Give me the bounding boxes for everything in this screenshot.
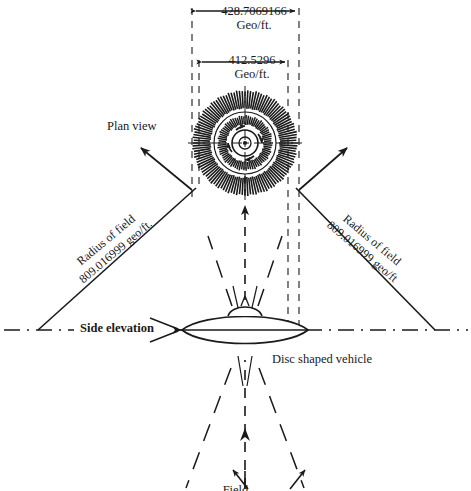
inner-dimension-label: 412.5296 Geo/ft. bbox=[196, 53, 308, 82]
disc-vehicle-label: Disc shaped vehicle bbox=[272, 352, 372, 366]
field-ray-up-left bbox=[208, 236, 232, 306]
side-elevation-label: Side elevation bbox=[78, 321, 156, 335]
plan-view-label: Plan view bbox=[107, 119, 157, 133]
bottom-caption-label: Field bbox=[0, 483, 471, 491]
field-ray-up-right bbox=[258, 236, 282, 306]
disc-vehicle-group bbox=[182, 296, 308, 344]
hub-center-dot bbox=[243, 141, 247, 145]
diagram-canvas: 428.7069166 Geo/ft. 412.5296 Geo/ft. Pla… bbox=[0, 0, 471, 491]
saucer-mast-right bbox=[245, 296, 249, 306]
outer-dimension-value: 428.7069166 bbox=[221, 4, 287, 18]
plan-view-arrow-left bbox=[141, 148, 192, 190]
under-craft-line-left bbox=[238, 356, 243, 386]
under-craft-line-right bbox=[247, 356, 252, 386]
field-ray-down-left bbox=[186, 368, 231, 488]
outer-dimension-unit: Geo/ft. bbox=[190, 18, 318, 32]
saucer-dome bbox=[228, 307, 262, 316]
central-field-arrowhead-down bbox=[240, 428, 250, 441]
field-ray-down-right bbox=[259, 368, 304, 488]
inner-dimension-value: 412.5296 bbox=[229, 53, 276, 67]
plan-view-rings-group bbox=[188, 86, 302, 200]
outer-dimension-label: 428.7069166 Geo/ft. bbox=[190, 4, 318, 33]
downward-field-cone-group bbox=[186, 356, 305, 489]
inner-dimension-unit: Geo/ft. bbox=[196, 67, 308, 81]
side-elev-arrowhead bbox=[172, 326, 182, 334]
plan-view-arrow-right bbox=[299, 148, 347, 190]
saucer-mast-left bbox=[241, 296, 245, 306]
